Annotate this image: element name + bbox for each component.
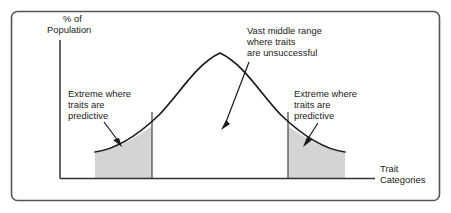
bell-curve-diagram: % of Population Trait Categories Extreme… <box>0 0 451 213</box>
x-axis-label-line2: Categories <box>380 174 426 185</box>
left-annotation-line3: predictive <box>68 110 108 121</box>
right-annotation-line3: predictive <box>294 110 334 121</box>
middle-annotation-line1: Vast middle range <box>247 25 322 36</box>
y-axis-label-line1: % of <box>63 13 82 24</box>
y-axis-label-line2: Population <box>47 24 91 35</box>
figure-root: % of Population Trait Categories Extreme… <box>0 0 451 213</box>
x-axis-label-line1: Trait <box>380 163 399 174</box>
middle-annotation-line2: where traits <box>246 36 296 47</box>
left-annotation-line1: Extreme where <box>68 88 131 99</box>
left-annotation-line2: traits are <box>68 99 104 110</box>
right-annotation-line1: Extreme where <box>294 88 357 99</box>
middle-annotation-line3: are unsuccessful <box>247 47 317 58</box>
right-annotation-line2: traits are <box>294 99 330 110</box>
